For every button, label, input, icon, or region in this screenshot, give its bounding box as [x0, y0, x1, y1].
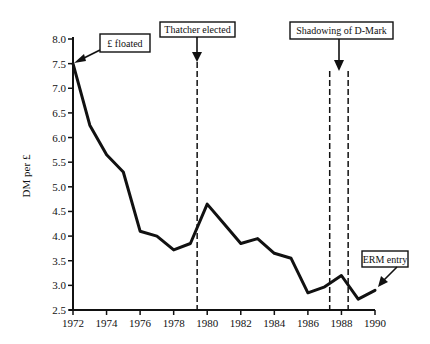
- axes: 2.53.03.54.04.55.05.56.06.57.07.58.01972…: [52, 33, 386, 329]
- y-tick-label: 7.5: [52, 58, 66, 70]
- x-tick-label: 1972: [62, 317, 84, 329]
- annotation-thatcher-elected: Thatcher elected: [160, 22, 235, 62]
- y-tick-label: 6.5: [52, 107, 66, 119]
- x-tick-label: 1988: [330, 317, 353, 329]
- event-lines: [197, 62, 348, 310]
- x-tick-label: 1978: [163, 317, 186, 329]
- annotation-label: Shadowing of D-Mark: [296, 25, 387, 36]
- y-tick-label: 8.0: [52, 33, 66, 45]
- annotation-pound-floated: £ floated: [74, 34, 150, 63]
- annotation-shadowing-dmark: Shadowing of D-Mark: [290, 22, 393, 71]
- chart-canvas: 2.53.03.54.04.55.05.56.06.57.07.58.01972…: [0, 0, 430, 344]
- annotation-label: £ floated: [107, 38, 142, 49]
- x-tick-label: 1986: [297, 317, 320, 329]
- x-tick-label: 1982: [230, 317, 252, 329]
- y-tick-label: 3.5: [52, 255, 66, 267]
- y-tick-label: 2.5: [52, 304, 66, 316]
- y-tick-label: 3.0: [52, 279, 66, 291]
- x-tick-label: 1976: [129, 317, 152, 329]
- y-tick-label: 7.0: [52, 82, 66, 94]
- arrow-down-icon: [334, 60, 344, 71]
- y-tick-label: 6.0: [52, 132, 66, 144]
- annotation-label: ERM entry: [363, 254, 408, 265]
- y-tick-label: 4.5: [52, 205, 66, 217]
- arrow-icon: [74, 54, 86, 63]
- arrow-down-icon: [192, 52, 202, 62]
- y-axis-label: DM per £: [20, 154, 32, 197]
- y-tick-label: 4.0: [52, 230, 66, 242]
- annotation-erm-entry: ERM entry: [362, 251, 408, 287]
- x-tick-label: 1984: [263, 317, 286, 329]
- annotation-label: Thatcher elected: [164, 24, 230, 35]
- exchange-rate-chart: 2.53.03.54.04.55.05.56.06.57.07.58.01972…: [0, 0, 430, 344]
- x-tick-label: 1980: [196, 317, 219, 329]
- y-tick-label: 5.0: [52, 181, 66, 193]
- x-tick-label: 1990: [364, 317, 387, 329]
- y-tick-label: 5.5: [52, 156, 66, 168]
- x-tick-label: 1974: [96, 317, 119, 329]
